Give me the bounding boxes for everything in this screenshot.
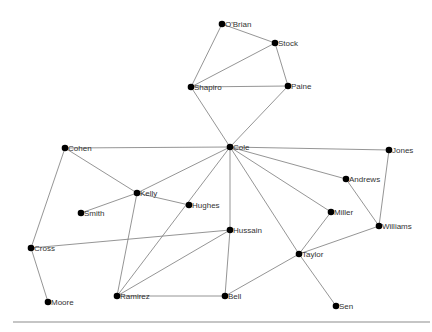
node: Cohen [62,144,92,153]
edge [379,150,389,226]
node-label: Hussain [233,226,262,235]
node: Bell [222,292,242,301]
node-label: Ramirez [120,292,150,301]
node-label: Taylor [302,250,324,259]
node-label: Kelly [140,189,157,198]
node: Paine [285,82,312,91]
edge [191,43,275,87]
node-label: Smith [84,209,104,218]
node-label: Moore [51,298,74,307]
edge [299,254,336,306]
edge [191,87,230,147]
node-label: Miller [334,208,353,217]
node-label: Williams [382,222,412,231]
edge [230,147,389,150]
node-label: Cross [34,244,55,253]
edge [275,43,288,86]
edge [225,230,230,296]
node: Hughes [186,201,220,210]
edge [230,86,288,147]
node: Shapiro [188,83,222,92]
node-label: Jones [392,146,413,155]
edge [137,147,230,193]
node: Ramirez [114,292,150,301]
edges-layer [31,24,389,306]
node-label: Bell [228,292,242,301]
node-label: Cohen [68,144,92,153]
node: Sen [333,302,354,311]
edge [225,254,299,296]
edge [31,248,48,302]
edge [117,193,137,296]
edge [117,147,230,296]
node: Hussain [227,226,262,235]
node: Jones [386,146,414,155]
edge [31,148,65,248]
node: Andrews [343,175,380,184]
network-graph: O'BrianStockShapiroPaineColeCohenJonesKe… [0,0,432,332]
node-label: Cole [233,143,250,152]
edge [346,179,379,226]
edge [65,148,137,193]
node: Miller [328,208,354,217]
edge [191,24,222,87]
node-label: Sen [339,302,353,311]
node-label: Hughes [192,201,220,210]
node-label: Andrews [349,175,380,184]
node: Kelly [134,189,158,198]
node-label: Paine [291,82,312,91]
edge [230,147,331,212]
node: Moore [45,298,75,307]
node-label: Shapiro [194,83,222,92]
node-label: O'Brian [225,20,251,29]
edge [117,230,230,296]
node-label: Stock [278,39,299,48]
nodes-layer: O'BrianStockShapiroPaineColeCohenJonesKe… [28,20,414,311]
node: Smith [78,209,105,218]
edge [31,230,230,248]
edge [299,212,331,254]
node: Taylor [296,250,324,259]
node: Williams [376,222,412,231]
node: O'Brian [219,20,252,29]
